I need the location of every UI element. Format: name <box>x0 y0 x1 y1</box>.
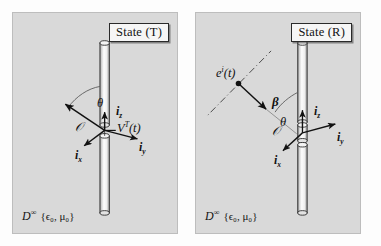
state-label-r: State (R) <box>291 23 352 42</box>
iy-subscript-right: y <box>340 137 343 146</box>
medium-parameters-left: {ϵ₀, μ₀} <box>40 210 74 222</box>
medium-symbol-right: D <box>205 209 214 223</box>
voltage-argument: (t) <box>129 121 141 135</box>
unit-vector-ix-label-right: ix <box>274 154 281 169</box>
iz-subscript-left: z <box>119 111 122 120</box>
beta-label: β <box>272 95 279 108</box>
iy-subscript-left: y <box>142 147 145 156</box>
medium-label-left: D∞{ϵ₀, μ₀} <box>22 208 74 224</box>
medium-symbol-left: D <box>22 209 31 223</box>
incident-field-label: ei(t) <box>216 66 236 80</box>
antenna-lower-arm-icon <box>100 134 109 216</box>
origin-label-left: 𝒪 <box>75 121 83 134</box>
source-voltage-label: VT(t) <box>117 121 141 135</box>
iz-subscript-right: z <box>317 111 320 120</box>
unit-vector-iz-label-left: iz <box>116 105 122 120</box>
state-label-t: State (T) <box>109 23 169 42</box>
panel-right-drawing <box>196 13 360 233</box>
unit-vector-iy-label-right: iy <box>337 131 344 146</box>
theta-arc <box>68 86 100 107</box>
voltage-symbol: V <box>117 121 125 135</box>
figure-container: State (T) θ 𝒪 iz iy ix VT(t) D∞{ϵ₀, μ₀} <box>0 0 381 246</box>
panel-state-r: State (R) ei(t) β θ 𝒪 iz iy ix D∞{ϵ₀, μ₀… <box>195 12 361 234</box>
panel-state-t: State (T) θ 𝒪 iz iy ix VT(t) D∞{ϵ₀, μ₀} <box>12 12 178 234</box>
panel-left-drawing <box>13 13 177 233</box>
antenna-lower-arm-icon <box>298 142 307 215</box>
medium-parameters-right: {ϵ₀, μ₀} <box>223 210 257 222</box>
unit-vector-iz-label-right: iz <box>314 105 320 120</box>
theta-label-right: θ <box>280 116 286 129</box>
theta-label-left: θ <box>97 97 103 110</box>
medium-label-right: D∞{ϵ₀, μ₀} <box>205 208 257 224</box>
medium-superscript-left: ∞ <box>31 208 37 217</box>
beta-direction-arrow <box>238 83 266 109</box>
medium-superscript-right: ∞ <box>214 208 220 217</box>
unit-vector-ix-label-left: ix <box>75 149 82 164</box>
origin-label-right: 𝒪 <box>272 125 280 138</box>
incident-argument: (t) <box>224 66 236 80</box>
ix-subscript-right: x <box>277 160 281 169</box>
ix-subscript-left: x <box>78 155 82 164</box>
unit-vector-iy-label-left: iy <box>139 141 146 156</box>
